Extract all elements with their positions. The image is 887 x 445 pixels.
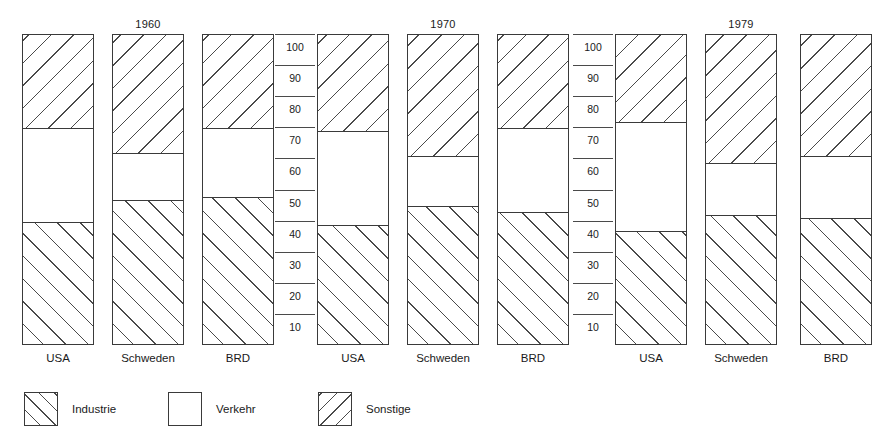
segment-sonstige xyxy=(706,35,776,163)
axis-tick-label-30: 30 xyxy=(570,259,616,271)
axis-tick-label-70: 70 xyxy=(272,134,318,146)
segment-industrie xyxy=(706,215,776,345)
bar-1979-brd xyxy=(800,34,872,345)
legend-item-verkehr: Verkehr xyxy=(168,392,256,426)
segment-verkehr xyxy=(23,128,93,221)
segment-verkehr xyxy=(498,128,568,212)
segment-verkehr xyxy=(318,131,388,224)
legend-label-industrie: Industrie xyxy=(72,403,116,415)
segment-sonstige xyxy=(318,35,388,131)
bar-1960-usa xyxy=(22,34,94,345)
axis-tick-label-20: 20 xyxy=(272,290,318,302)
segment-industrie xyxy=(801,218,871,345)
axis-tick-label-10: 10 xyxy=(570,321,616,333)
segment-sonstige xyxy=(23,35,93,128)
axis-tick-90 xyxy=(275,65,315,66)
segment-verkehr xyxy=(706,163,776,216)
legend-label-verkehr: Verkehr xyxy=(216,403,256,415)
legend-item-sonstige: Sonstige xyxy=(318,392,411,426)
bar-caption-1970-schweden: Schweden xyxy=(407,352,479,364)
axis-tick-100 xyxy=(275,34,315,35)
legend-swatch-industrie xyxy=(24,392,58,426)
axis-tick-label-80: 80 xyxy=(272,103,318,115)
axis-tick-10 xyxy=(275,314,315,315)
axis-tick-80 xyxy=(573,96,613,97)
legend-swatch-verkehr xyxy=(168,392,202,426)
axis-tick-50 xyxy=(573,190,613,191)
segment-verkehr xyxy=(113,153,183,200)
axis-tick-10 xyxy=(573,314,613,315)
segment-industrie xyxy=(203,197,273,345)
segment-industrie xyxy=(23,222,93,345)
axis-tick-20 xyxy=(275,283,315,284)
bar-caption-1979-schweden: Schweden xyxy=(705,352,777,364)
bar-caption-1970-brd: BRD xyxy=(497,352,569,364)
axis-tick-label-40: 40 xyxy=(272,228,318,240)
bar-caption-1960-schweden: Schweden xyxy=(112,352,184,364)
segment-sonstige xyxy=(801,35,871,156)
axis-tick-label-60: 60 xyxy=(272,165,318,177)
value-axis-2: 100908070605040302010 xyxy=(570,34,616,345)
bar-1960-brd xyxy=(202,34,274,345)
segment-industrie xyxy=(318,225,388,345)
segment-verkehr xyxy=(408,156,478,206)
segment-verkehr xyxy=(616,122,686,231)
axis-tick-label-30: 30 xyxy=(272,259,318,271)
axis-tick-label-90: 90 xyxy=(570,72,616,84)
axis-tick-label-60: 60 xyxy=(570,165,616,177)
axis-tick-90 xyxy=(573,65,613,66)
axis-tick-50 xyxy=(275,190,315,191)
segment-verkehr xyxy=(801,156,871,218)
axis-tick-40 xyxy=(573,221,613,222)
axis-tick-label-10: 10 xyxy=(272,321,318,333)
axis-tick-label-50: 50 xyxy=(570,197,616,209)
value-axis-1: 100908070605040302010 xyxy=(272,34,318,345)
axis-tick-label-70: 70 xyxy=(570,134,616,146)
axis-tick-20 xyxy=(573,283,613,284)
segment-sonstige xyxy=(408,35,478,156)
bar-caption-1960-usa: USA xyxy=(22,352,94,364)
bar-caption-1970-usa: USA xyxy=(317,352,389,364)
bar-caption-1979-usa: USA xyxy=(615,352,687,364)
axis-tick-label-90: 90 xyxy=(272,72,318,84)
axis-tick-30 xyxy=(275,252,315,253)
bar-1970-schweden xyxy=(407,34,479,345)
axis-tick-label-100: 100 xyxy=(570,41,616,53)
legend-swatch-sonstige xyxy=(318,392,352,426)
bar-caption-1960-brd: BRD xyxy=(202,352,274,364)
year-label-1960: 1960 xyxy=(112,18,184,30)
axis-tick-100 xyxy=(573,34,613,35)
segment-industrie xyxy=(408,206,478,345)
bar-1970-usa xyxy=(317,34,389,345)
segment-sonstige xyxy=(498,35,568,128)
bar-1979-usa xyxy=(615,34,687,345)
segment-industrie xyxy=(498,212,568,345)
axis-tick-label-50: 50 xyxy=(272,197,318,209)
bar-1960-schweden xyxy=(112,34,184,345)
legend-item-industrie: Industrie xyxy=(24,392,116,426)
legend-label-sonstige: Sonstige xyxy=(366,403,411,415)
stacked-bar-chart: 196019701979USASchwedenBRDUSASchwedenBRD… xyxy=(0,0,887,445)
axis-tick-60 xyxy=(573,158,613,159)
segment-industrie xyxy=(616,231,686,345)
axis-tick-label-80: 80 xyxy=(570,103,616,115)
axis-tick-30 xyxy=(573,252,613,253)
bar-1979-schweden xyxy=(705,34,777,345)
axis-tick-label-40: 40 xyxy=(570,228,616,240)
axis-tick-40 xyxy=(275,221,315,222)
bar-caption-1979-brd: BRD xyxy=(800,352,872,364)
year-label-1970: 1970 xyxy=(407,18,479,30)
segment-sonstige xyxy=(616,35,686,122)
axis-tick-60 xyxy=(275,158,315,159)
axis-tick-label-20: 20 xyxy=(570,290,616,302)
axis-tick-label-100: 100 xyxy=(272,41,318,53)
year-label-1979: 1979 xyxy=(705,18,777,30)
bar-1970-brd xyxy=(497,34,569,345)
segment-verkehr xyxy=(203,128,273,196)
segment-sonstige xyxy=(113,35,183,153)
segment-sonstige xyxy=(203,35,273,128)
axis-tick-70 xyxy=(573,127,613,128)
axis-tick-70 xyxy=(275,127,315,128)
segment-industrie xyxy=(113,200,183,345)
axis-tick-80 xyxy=(275,96,315,97)
